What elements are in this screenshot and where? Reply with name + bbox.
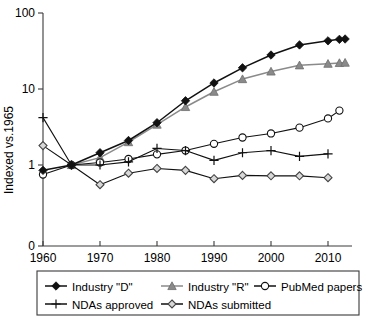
data-point — [210, 140, 217, 147]
data-point — [239, 134, 246, 141]
data-point — [153, 164, 161, 172]
data-point — [295, 152, 304, 161]
series-line — [43, 39, 345, 170]
y-tick-label: 1 — [28, 158, 35, 172]
chart-legend: Industry "D"Industry "R"PubMed papersNDA… — [37, 271, 362, 315]
data-point — [210, 79, 218, 87]
series-ndas-approved — [38, 113, 332, 170]
legend-item-pubmed-papers[interactable]: PubMed papers — [254, 281, 362, 293]
data-point — [336, 107, 343, 114]
y-tick-label: 10 — [22, 82, 36, 96]
data-point — [267, 51, 275, 59]
data-point — [324, 115, 331, 122]
data-point — [209, 156, 218, 165]
data-point — [39, 142, 47, 150]
data-point — [238, 64, 246, 72]
data-point — [324, 174, 332, 182]
line-chart: Indexed vs.1965 100101019601970198019902… — [0, 0, 369, 319]
data-point — [125, 169, 133, 177]
x-tick-label: 1970 — [87, 251, 114, 265]
x-tick-label: 1980 — [144, 251, 171, 265]
data-point — [210, 175, 218, 183]
data-point — [38, 113, 47, 122]
x-tick-label: 1990 — [201, 251, 228, 265]
series-industry-r — [67, 58, 349, 168]
legend-item-label: Industry "R" — [188, 281, 249, 293]
legend-item-industry-d[interactable]: Industry "D" — [45, 281, 133, 293]
x-tick-label: 2010 — [315, 251, 342, 265]
x-tick-label: 1960 — [30, 251, 57, 265]
series-line — [43, 118, 328, 165]
y-tick-label: 100 — [15, 6, 35, 20]
legend-item-ndas-submitted[interactable]: NDAs submitted — [161, 299, 271, 311]
data-point — [324, 37, 332, 45]
data-point — [296, 124, 303, 131]
legend-swatch-marker — [52, 282, 60, 290]
data-point — [182, 166, 190, 174]
legend-item-ndas-approved[interactable]: NDAs approved — [45, 299, 153, 311]
data-point — [181, 146, 190, 155]
y-axis-title: Indexed vs.1965 — [2, 106, 16, 194]
data-point — [239, 171, 247, 179]
data-point — [96, 181, 104, 189]
data-point — [266, 146, 275, 155]
legend-item-label: NDAs approved — [72, 299, 153, 311]
legend-item-label: Industry "D" — [72, 281, 133, 293]
series-pubmed-papers — [39, 107, 343, 178]
chart-container: Indexed vs.1965 100101019601970198019902… — [0, 0, 369, 319]
data-point — [152, 144, 161, 153]
data-point — [267, 172, 275, 180]
series-line — [72, 63, 346, 165]
data-point — [238, 148, 247, 157]
x-tick-label: 2000 — [258, 251, 285, 265]
data-point — [267, 130, 274, 137]
data-point — [323, 149, 332, 158]
data-point — [341, 35, 349, 43]
legend-item-label: PubMed papers — [281, 281, 362, 293]
data-point — [295, 41, 303, 49]
data-point — [210, 88, 218, 96]
legend-swatch-marker — [261, 282, 268, 289]
legend-swatch-marker — [168, 300, 176, 308]
legend-item-industry-r[interactable]: Industry "R" — [161, 281, 249, 293]
series-layer — [38, 35, 349, 189]
legend-item-label: NDAs submitted — [188, 299, 271, 311]
data-point — [296, 172, 304, 180]
legend-swatch-marker — [51, 299, 60, 308]
